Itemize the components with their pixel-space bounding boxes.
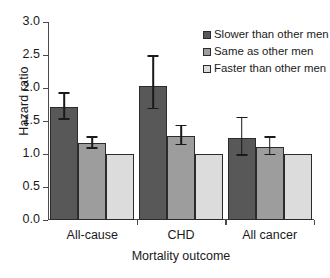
hazard-ratio-bar-chart: Hazard ratio 0.00.51.01.52.02.53.0 All-c… [0,0,330,278]
x-tick-mark [137,220,138,225]
x-category-label: CHD [137,228,226,242]
y-tick-mark [43,220,48,221]
bar [284,154,312,220]
error-bar-cap-lower [87,147,98,149]
bar [78,143,106,220]
bar [106,154,134,220]
x-axis-title: Mortality outcome [48,249,314,263]
error-bar-cap-upper [236,117,247,119]
x-category-label: All cancer [225,228,314,242]
error-bar-cap-upper [87,136,98,138]
y-tick-label: 2.5 [10,47,40,61]
legend-item: Slower than other men [203,27,329,42]
bar [50,107,78,220]
y-tick-label: 1.5 [10,113,40,127]
y-tick-label: 0.0 [10,212,40,226]
legend-item: Faster than other men [203,61,329,76]
y-tick-label: 0.5 [10,179,40,193]
error-bar-line [152,57,154,109]
error-bar-line [269,138,271,156]
error-bar-cap-lower [59,118,70,120]
error-bar-line [241,118,243,156]
legend-item: Same as other men [203,44,329,59]
error-bar-cap-upper [175,125,186,127]
bar [195,154,223,220]
y-tick-label: 2.0 [10,80,40,94]
error-bar-cap-upper [59,92,70,94]
legend-label: Slower than other men [214,29,329,40]
legend: Slower than other menSame as other menFa… [203,27,329,78]
legend-swatch-icon [203,65,211,73]
legend-swatch-icon [203,48,211,56]
bar-group [48,22,137,220]
y-tick-label: 3.0 [10,14,40,28]
legend-swatch-icon [203,31,211,39]
bar [167,136,195,220]
legend-label: Faster than other men [214,63,326,74]
y-tick-label: 1.0 [10,146,40,160]
error-bar-line [64,94,66,120]
error-bar-line [180,126,182,145]
x-tick-mark [225,220,226,225]
error-bar-cap-lower [264,154,275,156]
x-tick-mark [314,220,315,225]
error-bar-cap-lower [236,154,247,156]
error-bar-cap-lower [175,144,186,146]
legend-label: Same as other men [214,46,313,57]
error-bar-cap-upper [147,55,158,57]
error-bar-cap-lower [147,108,158,110]
error-bar-cap-upper [264,136,275,138]
x-category-label: All-cause [48,228,137,242]
bar [256,147,284,220]
